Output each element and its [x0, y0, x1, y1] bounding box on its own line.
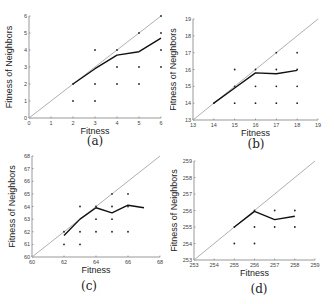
data-point — [79, 243, 81, 245]
y-tick-label: 13 — [185, 117, 191, 123]
x-tick-label: 15 — [232, 122, 238, 128]
y-tick-label: 256 — [183, 208, 192, 214]
x-tick-label: 66 — [125, 259, 131, 265]
data-point — [63, 231, 65, 233]
data-point — [95, 218, 97, 220]
x-tick-label: 258 — [290, 262, 299, 268]
y-tick-label: 1 — [24, 98, 27, 104]
data-point — [127, 206, 129, 208]
y-tick-label: 60 — [24, 254, 30, 260]
data-point — [72, 100, 74, 102]
data-point — [213, 102, 215, 104]
chart-panel-d: 2532542552562572582592532542552562572582… — [170, 150, 334, 304]
data-point — [296, 69, 298, 71]
y-tick-label: 68 — [24, 153, 30, 159]
y-axis-label: Fitness of Neighbors — [170, 169, 179, 252]
y-tick-label: 19 — [185, 16, 191, 22]
mean-fitness-line — [73, 38, 161, 84]
data-point — [138, 66, 140, 68]
data-point — [234, 69, 236, 71]
data-point — [79, 231, 81, 233]
x-tick-label: 17 — [273, 122, 279, 128]
data-point — [138, 83, 140, 85]
x-tick-label: 257 — [270, 262, 279, 268]
data-point — [234, 85, 236, 87]
y-axis-label: Fitness of Neighbors — [170, 28, 178, 111]
y-tick-label: 254 — [183, 241, 192, 247]
x-tick-label: 4 — [115, 120, 118, 126]
y-tick-label: 67 — [24, 166, 30, 172]
y-tick-label: 17 — [185, 50, 191, 56]
data-point — [296, 52, 298, 54]
y-tick-label: 62 — [24, 229, 30, 235]
y-tick-label: 61 — [24, 241, 30, 247]
data-point — [160, 15, 162, 17]
data-point — [255, 102, 257, 104]
y-tick-label: 258 — [183, 175, 192, 181]
data-point — [111, 218, 113, 220]
y-tick-label: 18 — [185, 33, 191, 39]
y-tick-label: 253 — [183, 257, 192, 263]
x-tick-label: 14 — [211, 122, 217, 128]
data-point — [275, 52, 277, 54]
data-point — [94, 49, 96, 51]
data-point — [160, 66, 162, 68]
data-point — [94, 83, 96, 85]
data-point — [116, 49, 118, 51]
caption-d: (d) — [244, 282, 274, 296]
y-tick-label: 14 — [185, 100, 191, 106]
x-tick-label: 62 — [61, 259, 67, 265]
y-tick-label: 5 — [24, 30, 27, 36]
data-point — [296, 102, 298, 104]
data-point — [234, 102, 236, 104]
y-tick-label: 4 — [24, 47, 27, 53]
data-point — [116, 66, 118, 68]
x-tick-label: 0 — [27, 120, 30, 126]
data-point — [254, 226, 256, 228]
y-tick-label: 259 — [183, 158, 192, 164]
x-tick-label: 19 — [315, 122, 321, 128]
x-tick-label: 2 — [71, 120, 74, 126]
x-tick-label: 18 — [294, 122, 300, 128]
x-tick-label: 68 — [157, 259, 163, 265]
x-tick-label: 6 — [159, 120, 162, 126]
y-tick-label: 0 — [24, 115, 27, 121]
data-point — [254, 243, 256, 245]
y-tick-label: 2 — [24, 81, 27, 87]
y-tick-label: 16 — [185, 67, 191, 73]
data-point — [95, 231, 97, 233]
y-tick-label: 65 — [24, 191, 30, 197]
data-point — [275, 85, 277, 87]
data-point — [233, 226, 235, 228]
data-point — [72, 83, 74, 85]
caption-a: (a) — [80, 134, 110, 148]
y-tick-label: 64 — [24, 204, 30, 210]
data-point — [94, 100, 96, 102]
diagonal-line — [29, 16, 161, 118]
data-point — [296, 85, 298, 87]
data-point — [274, 226, 276, 228]
data-point — [127, 231, 129, 233]
data-point — [138, 32, 140, 34]
y-axis-label: Fitness of Neighbors — [7, 165, 17, 248]
data-point — [111, 231, 113, 233]
data-point — [274, 210, 276, 212]
data-point — [233, 243, 235, 245]
data-point — [160, 49, 162, 51]
y-tick-label: 255 — [183, 224, 192, 230]
data-point — [294, 226, 296, 228]
x-axis-label: Fitness — [240, 268, 270, 278]
data-point — [111, 206, 113, 208]
caption-b: (b) — [241, 137, 271, 151]
x-tick-label: 5 — [137, 120, 140, 126]
x-tick-label: 255 — [230, 262, 239, 268]
x-tick-label: 259 — [310, 262, 319, 268]
y-tick-label: 66 — [24, 178, 30, 184]
data-point — [111, 193, 113, 195]
y-tick-label: 15 — [185, 83, 191, 89]
data-point — [116, 83, 118, 85]
data-point — [63, 243, 65, 245]
data-point — [254, 210, 256, 212]
data-point — [160, 32, 162, 34]
data-point — [79, 206, 81, 208]
